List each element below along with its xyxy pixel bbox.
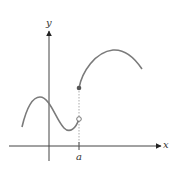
curve-left-piece [22,97,79,130]
curve-right-piece [79,50,142,88]
open-dot [77,117,82,122]
x-axis-label: x [163,140,169,150]
y-axis-label: y [46,18,52,28]
tick-label-a: a [76,152,82,162]
graph-canvas [0,0,176,169]
filled-dot [77,86,82,91]
